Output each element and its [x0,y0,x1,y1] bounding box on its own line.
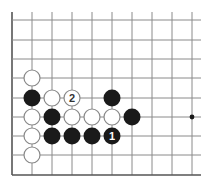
white-stone [24,128,40,144]
black-stone [44,109,61,126]
go-board-diagram: 21 [0,0,211,182]
black-stone-icon [124,109,141,126]
white-stone [84,109,100,125]
white-stone-icon [24,70,40,86]
black-stone-icon [24,90,41,107]
black-stone-move-1: 1 [104,128,121,145]
white-stone-icon [24,128,40,144]
black-stone [104,90,121,107]
white-stone-icon [44,90,60,106]
star-point-icon [190,115,195,120]
white-stone [64,109,80,125]
black-stone-icon [44,109,61,126]
move-number-label: 1 [109,130,115,142]
white-stone-icon [24,109,40,125]
white-stone [24,70,40,86]
white-stone-icon [84,109,100,125]
white-stone-move-2: 2 [64,90,80,106]
white-stone-icon [104,109,120,125]
black-stone-icon [84,128,101,145]
black-stone-icon [64,128,81,145]
white-stone-icon [64,109,80,125]
black-stone [44,128,61,145]
star-points [190,115,195,120]
black-stone [84,128,101,145]
white-stone [24,147,40,163]
move-number-label: 2 [69,92,75,104]
black-stone [124,109,141,126]
black-stone [24,90,41,107]
black-stone-icon [44,128,61,145]
black-stone-icon [104,90,121,107]
black-stone [64,128,81,145]
white-stone [104,109,120,125]
go-board-canvas: 21 [0,0,211,182]
white-stone-icon [24,147,40,163]
white-stone [24,109,40,125]
white-stone [44,90,60,106]
